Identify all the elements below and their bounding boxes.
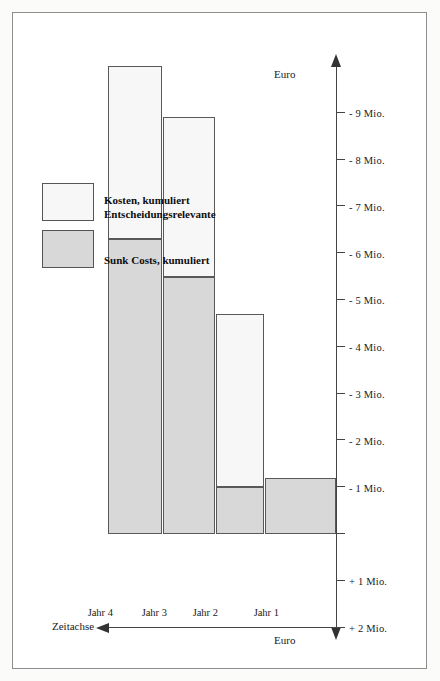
- value-axis-tick: [336, 580, 345, 581]
- value-axis-tick-label: - 9 Mio.: [349, 108, 385, 119]
- category-axis-label: Zeitachse: [52, 620, 94, 632]
- bar-segment: [216, 487, 264, 534]
- category-tick-label: Jahr 4: [88, 607, 113, 618]
- value-axis-tick: [336, 393, 345, 394]
- value-axis-tick-label: - 7 Mio.: [349, 202, 385, 213]
- value-axis-tick-label: - 3 Mio.: [349, 389, 385, 400]
- bar-segment: [163, 277, 215, 534]
- value-axis-tick: [336, 159, 345, 160]
- legend-swatch: [42, 230, 94, 268]
- value-axis-tick-label: + 1 Mio.: [349, 576, 387, 587]
- value-axis-tick: [336, 486, 345, 487]
- category-axis-arrow-icon: [96, 624, 109, 634]
- category-tick-label: Jahr 3: [142, 607, 167, 618]
- figure-page: Euro Euro + 3 Mio.+ 2 Mio.+ 1 Mio.- 1 Mi…: [0, 0, 440, 681]
- value-axis-tick-label: - 8 Mio.: [349, 155, 385, 166]
- value-axis-tick: [336, 533, 345, 534]
- legend-label: Kosten, kumuliert: [104, 194, 190, 207]
- value-axis-tick: [336, 439, 345, 440]
- value-axis-tick-label: - 6 Mio.: [349, 249, 385, 260]
- value-axis-tick-label: - 4 Mio.: [349, 342, 385, 353]
- bar-segment: [265, 478, 336, 534]
- rotated-canvas-wrapper: Euro Euro + 3 Mio.+ 2 Mio.+ 1 Mio.- 1 Mi…: [13, 13, 428, 670]
- chart-canvas: Euro Euro + 3 Mio.+ 2 Mio.+ 1 Mio.- 1 Mi…: [24, 26, 416, 656]
- value-axis-arrow-right-icon: [331, 54, 341, 67]
- value-axis-tick-label: - 2 Mio.: [349, 436, 385, 447]
- bar-segment: [216, 314, 264, 487]
- value-axis-tick-label: + 2 Mio.: [349, 623, 387, 634]
- legend-label: Sunk Costs, kumuliert: [104, 254, 209, 267]
- value-axis-tick-label: - 5 Mio.: [349, 296, 385, 307]
- value-axis-tick-label: - 1 Mio.: [349, 483, 385, 494]
- legend-swatch: [42, 183, 94, 221]
- bar-segment: [108, 239, 162, 534]
- figure-frame: Euro Euro + 3 Mio.+ 2 Mio.+ 1 Mio.- 1 Mi…: [12, 12, 427, 669]
- value-axis-tick: [336, 299, 345, 300]
- value-axis-tick: [336, 346, 345, 347]
- category-axis-line: [108, 627, 336, 628]
- value-axis-tick: [336, 205, 345, 206]
- value-axis-label-left: Euro: [274, 634, 295, 646]
- category-tick-label: Jahr 1: [253, 607, 278, 618]
- value-axis-arrow-left-icon: [331, 627, 341, 640]
- legend-label: Entscheidungsrelevante: [104, 208, 216, 221]
- value-axis-tick: [336, 112, 345, 113]
- value-axis-tick: [336, 252, 345, 253]
- value-axis-label-right: Euro: [274, 68, 295, 80]
- category-tick-label: Jahr 2: [193, 607, 218, 618]
- value-axis-tick: [336, 627, 345, 628]
